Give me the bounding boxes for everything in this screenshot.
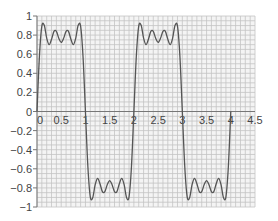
y-tick-label: 1 <box>26 10 32 22</box>
y-tick-label: 0.6 <box>17 48 32 60</box>
y-tick-label: 0 <box>26 106 32 118</box>
y-tick-label: −0.6 <box>10 163 32 175</box>
x-tick-label: 1.5 <box>102 114 117 126</box>
y-tick-label: −0.8 <box>10 182 32 194</box>
x-tick-label: 3.5 <box>199 114 214 126</box>
x-tick-label: 0.5 <box>54 114 69 126</box>
y-tick-label: 0.4 <box>17 67 32 79</box>
y-tick-label: −0.2 <box>10 125 32 137</box>
x-tick-label: 2.5 <box>150 114 165 126</box>
y-tick-label: −0.4 <box>10 144 32 156</box>
y-tick-label: 0.8 <box>17 29 32 41</box>
x-tick-label: 4.5 <box>247 114 262 126</box>
line-chart: 10.80.60.40.20−0.2−0.4−0.6−0.8−1 00.511.… <box>0 0 278 221</box>
y-tick-label: 0.2 <box>17 86 32 98</box>
y-tick-label: −1 <box>19 201 32 213</box>
x-tick-label: 0 <box>37 114 43 126</box>
y-axis-ticks: 10.80.60.40.20−0.2−0.4−0.6−0.8−1 <box>10 10 37 213</box>
